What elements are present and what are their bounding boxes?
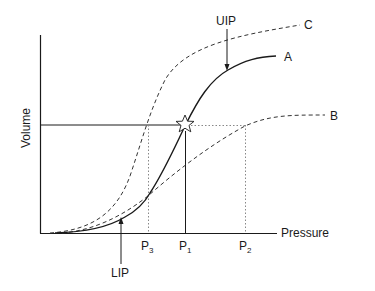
curve-b xyxy=(62,115,325,233)
lip-label: LIP xyxy=(111,266,129,280)
curve-b-label: B xyxy=(330,109,338,123)
p3-label: P3 xyxy=(141,239,154,255)
star-icon xyxy=(176,115,194,132)
p1-label: P1 xyxy=(179,239,192,255)
curve-a xyxy=(55,56,276,233)
y-axis-label: Volume xyxy=(19,108,33,148)
curve-a-label: A xyxy=(284,50,292,64)
curve-c-label: C xyxy=(304,18,313,32)
x-axis-label: Pressure xyxy=(281,226,329,240)
pressure-volume-diagram: UIP LIP C A B Pressure Volume P3 P1 P2 xyxy=(0,0,375,291)
p2-label: P2 xyxy=(239,239,252,255)
uip-label: UIP xyxy=(216,14,236,28)
curve-c xyxy=(50,25,300,233)
